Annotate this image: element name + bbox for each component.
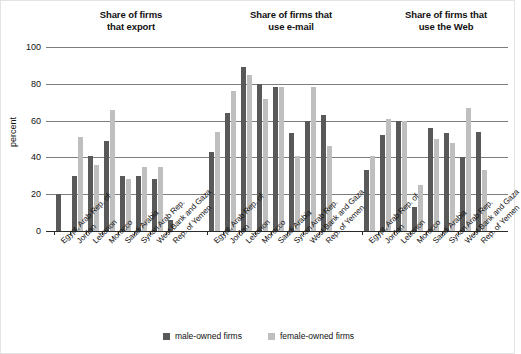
y-tick-label-100: 100 [26,42,41,52]
x-tick-mark [303,231,304,235]
bar-group-panel-2 [364,47,492,231]
x-tick-mark [70,231,71,235]
bar-male [104,141,109,231]
bar-pair [225,47,237,231]
x-tick-mark [271,231,272,235]
x-tick-mark [426,231,427,235]
x-tick-mark [362,231,363,235]
x-tick-mark [394,231,395,235]
panel-title-export-line2: that export [61,21,201,33]
panel-title-email-line2: use e-mail [216,21,366,33]
bar-male [380,135,385,231]
bar-pair [209,47,221,231]
bar-pair [305,47,317,231]
bar-male [364,170,369,231]
bar-pair [136,47,148,231]
x-tick-mark [378,231,379,235]
y-tick-label-20: 20 [31,189,41,199]
bar-female [311,87,316,231]
bar-male [273,87,278,231]
legend-item-male: male-owned firms [163,331,242,341]
plot-area: 020406080100 [46,47,508,231]
bar-pair [428,47,440,231]
bar-female [215,132,220,231]
panel-title-export-line1: Share of firms [61,9,201,21]
bar-male [289,133,294,231]
legend-swatch-female-icon [268,333,275,340]
x-tick-mark [54,231,55,235]
panel-title-export: Share of firms that export [61,9,201,32]
x-tick-mark [474,231,475,235]
bar-male [257,84,262,231]
bar-group-panel-1 [209,47,337,231]
bar-pair [460,47,472,231]
x-tick-mark [134,231,135,235]
bar-pair [56,47,68,231]
bar-female [110,110,115,231]
bar-male [428,128,433,231]
legend-item-female: female-owned firms [268,331,354,341]
x-tick-mark [118,231,119,235]
bar-female [263,99,268,231]
bar-female [231,91,236,231]
legend-label-female: female-owned firms [280,331,354,341]
bar-pair [273,47,285,231]
bar-male [56,194,61,231]
bar-pair [289,47,301,231]
bar-pair [380,47,392,231]
y-tick-label-60: 60 [31,116,41,126]
x-tick-mark [410,231,411,235]
chart-legend: male-owned firms female-owned firms [1,331,516,341]
legend-label-male: male-owned firms [175,331,242,341]
legend-swatch-male-icon [163,333,170,340]
x-axis-labels: Egypt, Arab Rep. ofJordanLebanonMoroccoS… [1,235,516,321]
x-tick-mark [102,231,103,235]
bar-pair [72,47,84,231]
x-tick-mark [223,231,224,235]
bar-pair [444,47,456,231]
bar-female [370,156,375,231]
x-tick-mark [442,231,443,235]
panel-title-web: Share of firms that use the Web [376,9,516,32]
bar-pair [364,47,376,231]
y-tick-label-40: 40 [31,152,41,162]
x-tick-mark [86,231,87,235]
bar-female [279,87,284,231]
bar-male [225,113,230,231]
x-tick-mark [239,231,240,235]
x-tick-mark [458,231,459,235]
x-tick-mark [150,231,151,235]
x-tick-mark [207,231,208,235]
y-tick-label-80: 80 [31,79,41,89]
y-axis-label: percent [8,102,18,162]
panel-titles: Share of firms that export Share of firm… [1,7,516,37]
panel-title-email-line1: Share of firms that [216,9,366,21]
x-tick-mark [319,231,320,235]
bar-pair [120,47,132,231]
bar-male [444,133,449,231]
bar-group-panel-0 [56,47,184,231]
panel-title-web-line1: Share of firms that [376,9,516,21]
panel-title-email: Share of firms that use e-mail [216,9,366,32]
x-tick-mark [166,231,167,235]
x-tick-mark [287,231,288,235]
panel-title-web-line2: use the Web [376,21,516,33]
x-tick-mark [255,231,256,235]
bar-pair [152,47,164,231]
